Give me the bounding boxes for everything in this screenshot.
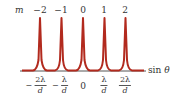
order-minus-1: −1 [54,6,67,15]
tick-num: 2λ [34,76,46,86]
axis-label-text: sin [148,65,164,75]
tick-num: λ [61,76,68,86]
tick-den: d [122,86,127,95]
tick-num: 2λ [119,76,131,86]
intensity-curve [22,18,144,71]
tick-zero: 0 [80,82,86,91]
tick-sign: − [52,82,59,90]
order-1: 1 [101,6,107,15]
tick-den: d [101,86,106,95]
tick-2lambda-d: 2λd [119,76,131,95]
tick-sign: − [26,82,33,90]
axis-label: sin θ [148,66,170,75]
tick-den: d [38,86,43,95]
tick-den: d [62,86,67,95]
order-2: 2 [122,6,128,15]
tick-minus-2lambda-d: − 2λd [26,76,47,95]
axis-label-theta: θ [164,65,169,75]
tick-num: λ [100,76,107,86]
tick-lambda-d: λd [100,76,107,95]
order-0: 0 [80,6,86,15]
order-label: m [15,6,24,15]
tick-minus-lambda-d: − λd [52,76,68,95]
order-minus-2: −2 [33,6,46,15]
